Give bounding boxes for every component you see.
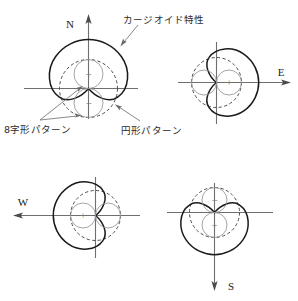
panel-north-plus-sign: + bbox=[85, 68, 91, 80]
panel-north: + − N bbox=[24, 14, 138, 119]
panel-south-plus-sign: + bbox=[211, 219, 217, 231]
callout-label-figure8: 8字形パターン bbox=[4, 122, 71, 136]
panel-west-plus-sign: + bbox=[80, 209, 86, 221]
figure-root: + − N + − E + − bbox=[0, 0, 298, 301]
panel-west-direction-label: W bbox=[18, 196, 29, 208]
panel-north-direction-label: N bbox=[66, 18, 74, 30]
callout-label-cardioid: カージオイド特性 bbox=[123, 12, 205, 26]
panel-east-minus-sign: − bbox=[201, 76, 207, 88]
panel-east-direction-label: E bbox=[278, 66, 285, 78]
panel-east-plus-sign: + bbox=[226, 76, 232, 88]
callout-label-circle: 円形パターン bbox=[121, 123, 182, 137]
panel-north-minus-sign: − bbox=[85, 97, 91, 109]
callout-cardioid-leader bbox=[120, 25, 138, 46]
polar-patterns-figure: + − N + − E + − bbox=[0, 0, 298, 301]
panel-west: + − W bbox=[13, 177, 140, 258]
panel-south-minus-sign: − bbox=[211, 194, 217, 206]
panel-south: − + S bbox=[167, 183, 273, 292]
panel-west-minus-sign: − bbox=[105, 209, 111, 221]
callout-circle-leader bbox=[115, 104, 140, 121]
panel-south-direction-label: S bbox=[228, 280, 234, 292]
panel-east: + − E bbox=[178, 42, 291, 124]
callout-figure8-leader bbox=[40, 86, 83, 120]
